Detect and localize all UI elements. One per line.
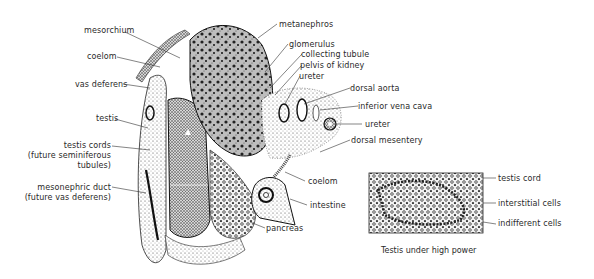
label-glomerulus: glomerulus <box>289 40 335 49</box>
inferior-vena-cava <box>313 105 319 121</box>
label-mesorchium: mesorchium <box>84 26 134 35</box>
pancreas-region <box>210 150 256 238</box>
inset-caption: Testis under high power <box>381 246 476 255</box>
label-ureter-upper: ureter <box>299 72 324 81</box>
label-mesonephric-duct-line2: (future vas deferens) <box>6 193 111 202</box>
label-vas-deferens: vas deferens <box>75 80 128 89</box>
label-coelom-upper: coelom <box>87 52 117 61</box>
label-collecting-tubule: collecting tubule <box>301 50 369 59</box>
mesorchium-strand <box>136 30 190 82</box>
label-intestine: intestine <box>310 201 346 210</box>
label-interstitial-cells: interstitial cells <box>498 199 561 208</box>
label-mesonephric-duct: mesonephric duct <box>10 183 111 192</box>
label-dorsal-mesentery: dorsal mesentery <box>351 136 423 145</box>
label-pancreas: pancreas <box>266 224 303 233</box>
label-pelvis-of-kidney: pelvis of kidney <box>300 61 364 70</box>
label-dorsal-aorta: dorsal aorta <box>350 84 399 93</box>
label-testis-cords-line2: (future seminiferous <box>12 151 111 160</box>
intestine <box>252 178 295 226</box>
dorsal-aorta <box>297 99 307 121</box>
label-inferior-vena-cava: inferior vena cava <box>358 102 432 111</box>
label-testis-cord: testis cord <box>498 174 541 183</box>
label-ureter-lower: ureter <box>365 120 390 129</box>
label-testis: testis <box>96 114 118 123</box>
label-testis-cords-line3: tubules) <box>32 161 111 170</box>
inset-leader-lines <box>483 178 496 224</box>
testis-outer <box>138 75 166 262</box>
label-metanephros: metanephros <box>279 20 333 29</box>
label-testis-cords: testis cords <box>32 141 111 150</box>
label-indifferent-cells: indifferent cells <box>498 219 562 228</box>
label-coelom-lower: coelom <box>308 177 338 186</box>
figure: mesorchium coelom vas deferens testis te… <box>0 0 594 279</box>
